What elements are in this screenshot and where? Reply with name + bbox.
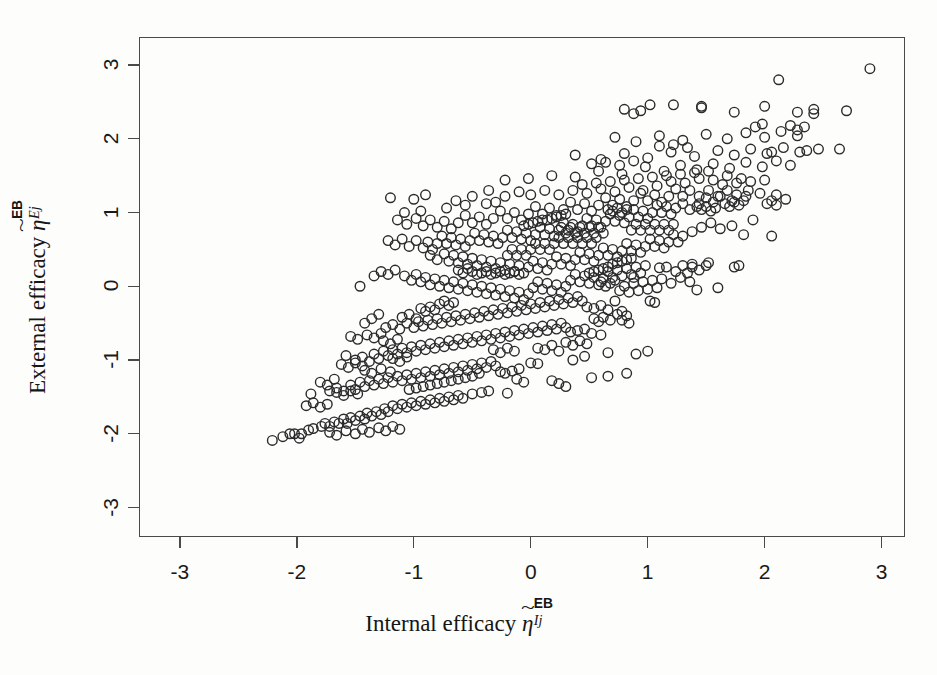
- y-tick-4: [128, 212, 139, 213]
- x-tick-2: [413, 537, 414, 548]
- y-axis-symbol-eta: ~η: [25, 219, 51, 230]
- x-axis-symbol-scripts: EBIj: [534, 608, 572, 631]
- x-axis-symbol-tilde: ~: [520, 599, 534, 618]
- y-axis-symbol-subscript: Ej: [27, 206, 41, 219]
- x-tick-label-3: 0: [511, 561, 551, 582]
- scatter-plot-figure: -3-2-10123 -3-2-10123 Internal efficacy …: [0, 0, 937, 675]
- y-tick-6: [128, 64, 139, 65]
- y-tick-label-6: 3: [100, 45, 121, 85]
- x-axis-symbol-eta: ~η: [522, 611, 533, 637]
- y-tick-label-2: -1: [100, 340, 121, 380]
- x-tick-label-6: 3: [862, 561, 902, 582]
- x-tick-1: [296, 537, 297, 548]
- y-tick-2: [128, 359, 139, 360]
- x-tick-6: [881, 537, 882, 548]
- y-tick-label-3: 0: [100, 266, 121, 306]
- x-axis-label: Internal efficacy ~ηEBIj: [0, 608, 937, 637]
- y-tick-3: [128, 286, 139, 287]
- y-tick-label-1: -2: [100, 413, 121, 453]
- y-axis-symbol-superscript: EB: [11, 200, 25, 219]
- x-tick-label-4: 1: [628, 561, 668, 582]
- y-axis-symbol-scripts: EBEj: [22, 181, 45, 219]
- y-tick-0: [128, 507, 139, 508]
- x-tick-3: [530, 537, 531, 548]
- y-tick-label-4: 1: [100, 192, 121, 232]
- y-axis-label-text: External efficacy: [25, 237, 50, 394]
- x-tick-label-0: -3: [160, 561, 200, 582]
- y-axis-label: External efficacy ~ηEBEj: [22, 181, 51, 394]
- y-tick-1: [128, 433, 139, 434]
- x-tick-4: [647, 537, 648, 548]
- x-axis-label-text: Internal efficacy: [365, 611, 516, 636]
- x-tick-label-5: 2: [745, 561, 785, 582]
- y-tick-label-0: -3: [100, 487, 121, 527]
- x-tick-label-1: -2: [277, 561, 317, 582]
- y-axis-symbol-tilde: ~: [13, 219, 32, 233]
- x-tick-5: [764, 537, 765, 548]
- x-axis-symbol-superscript: EB: [534, 597, 553, 611]
- y-tick-label-5: 2: [100, 118, 121, 158]
- y-tick-5: [128, 138, 139, 139]
- y-axis-label-wrapper: External efficacy ~ηEBEj: [14, 0, 58, 575]
- plot-frame: [139, 37, 905, 537]
- x-tick-label-2: -1: [394, 561, 434, 582]
- x-axis-symbol-subscript: Ij: [534, 613, 543, 627]
- x-tick-0: [179, 537, 180, 548]
